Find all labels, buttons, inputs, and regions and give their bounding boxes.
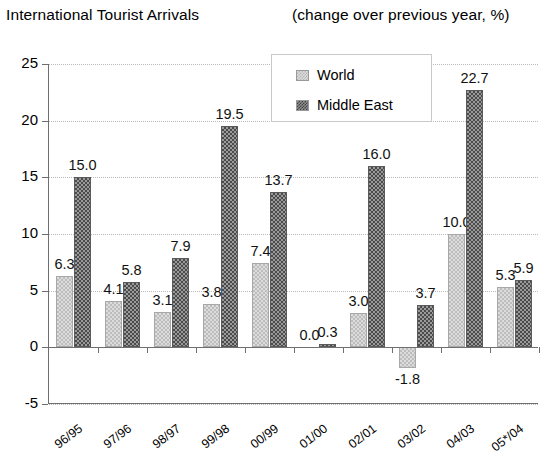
- bar-world: [154, 312, 171, 347]
- bar-middle-east: [172, 258, 189, 348]
- bar-value-label: -1.8: [386, 371, 430, 387]
- bar-world: [252, 263, 269, 347]
- bar-world: [350, 313, 367, 347]
- legend-swatch-middle-east-icon: [296, 100, 309, 111]
- x-tick-label: 98/97: [136, 421, 183, 461]
- x-tick-mark: [245, 347, 246, 353]
- bar-value-label: 13.7: [257, 172, 301, 188]
- bar-middle-east: [221, 126, 238, 347]
- bar-value-label: 19.5: [208, 106, 252, 122]
- y-tick-label: 5: [30, 281, 38, 298]
- bar-world: [105, 301, 122, 347]
- bar-world: [399, 347, 416, 367]
- x-tick-mark: [196, 347, 197, 353]
- legend-swatch-world-icon: [296, 70, 309, 81]
- bar-value-label: 22.7: [453, 70, 497, 86]
- x-tick-label: 01/00: [283, 421, 330, 461]
- y-tick-label: -5: [25, 394, 38, 411]
- bar-world: [203, 304, 220, 347]
- bar-middle-east: [123, 282, 140, 348]
- x-tick-mark: [490, 347, 491, 353]
- bar-world: [448, 234, 465, 347]
- y-tick-label: 15: [21, 167, 38, 184]
- x-tick-label: 03/02: [381, 421, 428, 461]
- bar-middle-east: [270, 192, 287, 347]
- bar-value-label: 16.0: [355, 146, 399, 162]
- page-title: International Tourist Arrivals: [6, 6, 199, 24]
- x-tick-label: 04/03: [430, 421, 477, 461]
- bar-value-label: 7.9: [159, 238, 203, 254]
- bar-world: [56, 276, 73, 347]
- bar-value-label: 5.8: [110, 262, 154, 278]
- legend-label-world: World: [317, 67, 355, 83]
- x-tick-label: 05*/04: [479, 421, 526, 461]
- x-tick-mark: [539, 347, 540, 353]
- x-tick-mark: [98, 347, 99, 353]
- legend-item-middle-east: Middle East: [296, 97, 393, 113]
- bar-world: [497, 287, 514, 347]
- x-tick-label: 97/96: [87, 421, 134, 461]
- chart-subtitle: (change over previous year, %): [292, 6, 510, 24]
- bar-middle-east: [466, 90, 483, 347]
- x-tick-label: 00/99: [234, 421, 281, 461]
- legend-label-middle-east: Middle East: [317, 97, 393, 113]
- bar-middle-east: [515, 280, 532, 347]
- bar-value-label: 0.3: [306, 324, 350, 340]
- bar-value-label: 15.0: [61, 157, 105, 173]
- x-tick-mark: [294, 347, 295, 353]
- legend: World Middle East: [271, 54, 432, 122]
- x-tick-mark: [392, 347, 393, 353]
- x-tick-label: 02/01: [332, 421, 379, 461]
- x-tick-mark: [441, 347, 442, 353]
- y-tick-mark: [42, 404, 48, 405]
- x-tick-label: 99/98: [185, 421, 232, 461]
- bar-middle-east: [74, 177, 91, 347]
- bar-middle-east: [368, 166, 385, 347]
- legend-item-world: World: [296, 67, 355, 83]
- y-tick-label: 0: [30, 337, 38, 354]
- y-tick-label: 10: [21, 224, 38, 241]
- bar-middle-east: [417, 305, 434, 347]
- bar-value-label: 5.9: [502, 260, 546, 276]
- y-tick-label: 25: [21, 54, 38, 71]
- x-tick-label: 96/95: [38, 421, 85, 461]
- x-tick-mark: [147, 347, 148, 353]
- gridline: [49, 404, 538, 405]
- x-tick-mark: [343, 347, 344, 353]
- y-tick-label: 20: [21, 111, 38, 128]
- bar-value-label: 3.7: [404, 285, 448, 301]
